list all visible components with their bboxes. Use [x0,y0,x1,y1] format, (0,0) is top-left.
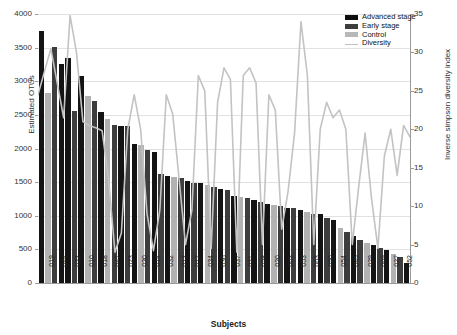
legend-swatch-control-icon [345,32,358,37]
x-axis-tick-label: 027 [393,255,400,285]
x-axis-tick-label: 032 [167,255,174,285]
x-axis-tick-label: 069 [380,255,387,285]
y-axis-left-title: Estimated OTUs [27,30,36,180]
y-axis-right-tick-mark [411,245,414,246]
x-axis-tick-label: 029 [367,255,374,285]
y-axis-right-tick-mark [411,52,414,53]
x-axis-tick-label: 063 [313,255,320,285]
x-axis-tick-label: 021 [247,255,254,285]
y-axis-left-tick-label: 3000 [4,76,32,85]
x-axis-tick-label: 003 [287,255,294,285]
y-axis-left-tick-mark [35,283,38,284]
x-axis-tick-label: 023 [127,255,134,285]
x-axis-tick-label: 010 [88,255,95,285]
legend-item-diversity: Diversity [345,39,416,48]
legend-swatch-early-icon [345,24,358,29]
x-axis-tick-label: 019 [48,255,55,285]
x-axis-tick-label: 020 [274,255,281,285]
y-axis-left-tick-label: 0 [4,278,32,287]
legend-swatch-diversity-icon [345,44,358,45]
chart-legend: Advanced stage Early stage Control Diver… [345,13,416,48]
chart-figure: Estimated OTUs Inverse simpson diversity… [0,0,457,335]
x-axis-tick-label: 045 [353,255,360,285]
x-axis-tick-label: 052 [406,255,413,285]
y-axis-left-tick-label: 4000 [4,9,32,18]
y-axis-right-tick-label: 25 [414,86,442,95]
y-axis-right-title: Inverse simpson diversity index [443,10,452,200]
y-axis-right-line [410,14,411,284]
y-axis-right-tick-mark [411,206,414,207]
y-axis-right-tick-mark [411,129,414,130]
y-axis-right-tick-label: 20 [414,124,442,133]
y-axis-right-tick-mark [411,168,414,169]
y-axis-left-tick-label: 2500 [4,110,32,119]
y-axis-right-tick-label: 30 [414,47,442,56]
x-axis-tick-label: 034 [207,255,214,285]
x-axis-tick-label: 012 [181,255,188,285]
x-axis-tick-label: 017 [194,255,201,285]
y-axis-left-tick-label: 3500 [4,43,32,52]
x-axis-tick-labels: 0190440220100180470230300140320120170340… [38,285,410,317]
x-axis-title: Subjects [0,319,457,329]
y-axis-left-tick-label: 1500 [4,177,32,186]
y-axis-right-tick-label: 5 [414,240,442,249]
x-axis-tick-label: 054 [340,255,347,285]
y-axis-right-tick-label: 0 [414,278,442,287]
y-axis-left-tick-label: 2000 [4,144,32,153]
x-axis-tick-label: 047 [114,255,121,285]
x-axis-tick-label: 037 [234,255,241,285]
y-axis-left-tick-label: 500 [4,244,32,253]
x-axis-tick-label: 044 [61,255,68,285]
y-axis-left-tick-label: 1000 [4,211,32,220]
x-axis-tick-label: 058 [260,255,267,285]
y-axis-right-tick-label: 10 [414,201,442,210]
x-axis-tick-label: 030 [141,255,148,285]
x-axis-tick-label: 053 [300,255,307,285]
x-axis-tick-label: 050 [327,255,334,285]
x-axis-tick-label: 014 [154,255,161,285]
y-axis-right-tick-label: 15 [414,163,442,172]
x-axis-tick-label: 022 [74,255,81,285]
plot-area [38,14,410,283]
x-axis-tick-label: 018 [101,255,108,285]
legend-swatch-advanced-icon [345,15,358,20]
legend-label-diversity: Diversity [362,39,391,48]
y-axis-right-tick-mark [411,91,414,92]
y-axis-right-tick-label: 35 [414,9,442,18]
x-axis-tick-label: 036 [220,255,227,285]
diversity-line-series [38,14,410,283]
